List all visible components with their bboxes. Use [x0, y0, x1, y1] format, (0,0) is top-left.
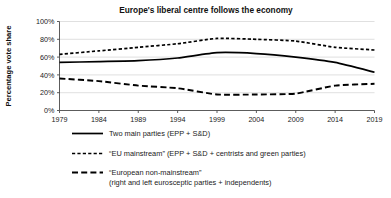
y-tick-label: 60% — [40, 53, 55, 62]
x-tick-label: 1984 — [91, 115, 107, 124]
y-tick-label: 40% — [40, 71, 55, 80]
legend-label-1: “EU mainstream” (EPP + S&D + centrists a… — [109, 149, 306, 158]
legend-entry-2: “European non-mainstream”(right and left… — [72, 168, 272, 187]
x-tick-label: 1989 — [130, 115, 146, 124]
chart-title: Europe's liberal centre follows the econ… — [119, 5, 293, 15]
x-tick-label: 1979 — [52, 115, 68, 124]
x-tick-label: 2009 — [288, 115, 304, 124]
data-series-group — [60, 38, 375, 94]
line-chart: Europe's liberal centre follows the econ… — [0, 0, 391, 198]
legend-label-2: “European non-mainstream” — [109, 168, 202, 177]
y-tick-label: 100% — [36, 17, 55, 26]
chart-figure: Europe's liberal centre follows the econ… — [0, 0, 391, 198]
x-axis-tick-labels: 197919841989199419992004200920142019 — [52, 115, 383, 124]
x-tick-label: 2014 — [327, 115, 343, 124]
legend-label-0: Two main parties (EPP + S&D) — [109, 129, 210, 138]
y-axis-tick-labels: 0%20%40%60%80%100% — [36, 17, 55, 115]
x-tick-label: 1999 — [209, 115, 225, 124]
y-axis-title: Percentage vote share — [4, 25, 13, 106]
series-line-2 — [60, 78, 375, 94]
x-tick-label: 2004 — [248, 115, 264, 124]
legend-label-2-line2: (right and left eurosceptic parties + in… — [109, 178, 272, 187]
legend-entry-0: Two main parties (EPP + S&D) — [72, 129, 210, 138]
y-tick-label: 80% — [40, 35, 55, 44]
legend-entry-1: “EU mainstream” (EPP + S&D + centrists a… — [72, 149, 306, 158]
chart-legend: Two main parties (EPP + S&D)“EU mainstre… — [72, 129, 306, 187]
x-tick-label: 2019 — [367, 115, 383, 124]
y-tick-label: 20% — [40, 88, 55, 97]
series-line-0 — [60, 53, 375, 73]
x-tick-label: 1994 — [170, 115, 186, 124]
